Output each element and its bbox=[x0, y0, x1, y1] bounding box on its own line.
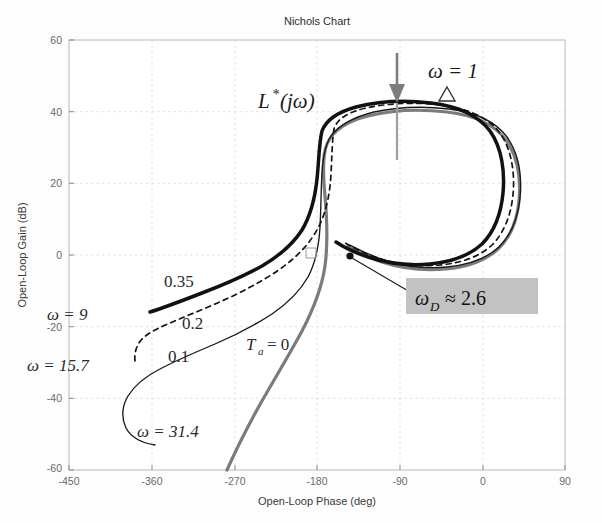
x-tick-label-1: -360 bbox=[141, 475, 162, 487]
ta-value: = 0 bbox=[267, 335, 289, 354]
label-omega-9: ω = 9 bbox=[47, 305, 88, 324]
x-tick-label-2: -270 bbox=[224, 475, 245, 487]
y-tick-label-2: 20 bbox=[50, 177, 62, 189]
transfer-function-L: L bbox=[257, 89, 270, 113]
label-ta-0-1: 0.1 bbox=[168, 347, 189, 366]
x-tick-label-6: 90 bbox=[559, 475, 571, 487]
y-tick-label-5: -40 bbox=[47, 392, 62, 404]
x-tick-label-0: -450 bbox=[58, 475, 79, 487]
omega-1-label: ω = 1 bbox=[428, 59, 478, 83]
transfer-function-label: L * (jω) bbox=[257, 87, 315, 113]
label-omega-31-4: ω = 31.4 bbox=[137, 422, 199, 441]
y-tick-label-6: -60 bbox=[47, 462, 62, 474]
ta-subscript: a bbox=[258, 345, 264, 357]
ta-symbol: T bbox=[246, 335, 257, 354]
x-tick-label-3: -180 bbox=[306, 475, 327, 487]
x-tick-label-4: -90 bbox=[392, 475, 407, 487]
omega-d-value: ≈ 2.6 bbox=[445, 287, 486, 309]
y-tick-label-1: 40 bbox=[50, 106, 62, 118]
nichols-chart-figure: 60 40 20 0 -20 -40 -60 -450 -360 -270 -1… bbox=[0, 0, 602, 523]
x-tick-label-5: 0 bbox=[480, 475, 486, 487]
chart-canvas: 60 40 20 0 -20 -40 -60 -450 -360 -270 -1… bbox=[0, 0, 602, 523]
label-omega-15-7: ω = 15.7 bbox=[27, 356, 90, 375]
y-tick-label-0: 60 bbox=[50, 34, 62, 46]
label-ta-0-2: 0.2 bbox=[182, 314, 203, 333]
transfer-function-arg: (jω) bbox=[280, 89, 315, 113]
transfer-function-star: * bbox=[272, 87, 279, 102]
omega-d-symbol: ω bbox=[415, 287, 429, 309]
y-axis-title: Open-Loop Gain (dB) bbox=[16, 202, 28, 307]
x-axis-title: Open-Loop Phase (deg) bbox=[258, 495, 376, 507]
y-tick-label-3: 0 bbox=[56, 249, 62, 261]
label-ta-0-35: 0.35 bbox=[164, 272, 194, 291]
label-ta-0: T a = 0 bbox=[246, 335, 289, 357]
page-title: Nichols Chart bbox=[284, 15, 350, 27]
omega-d-subscript: D bbox=[429, 299, 440, 314]
